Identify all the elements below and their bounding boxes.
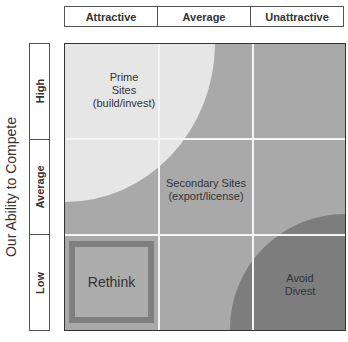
col-unattractive: Unattractive: [251, 7, 343, 26]
y-axis-label: Our Ability to Compete: [0, 43, 22, 331]
row-high: High: [30, 44, 49, 140]
gridline-h1: [65, 138, 345, 140]
avoid-divest-label: Avoid Divest: [265, 272, 335, 298]
gridline-h2: [65, 234, 345, 236]
strategy-matrix: Rethink Prime Sites (build/invest) Secon…: [64, 43, 346, 331]
column-header: Attractive Average Unattractive: [64, 6, 344, 27]
col-attractive: Attractive: [65, 7, 158, 26]
col-average: Average: [158, 7, 251, 26]
row-header: High Average Low: [29, 43, 50, 331]
row-average: Average: [30, 140, 49, 236]
row-low: Low: [30, 235, 49, 330]
rethink-region: Rethink: [69, 241, 154, 323]
rethink-label: Rethink: [75, 247, 148, 317]
secondary-sites-label: Secondary Sites (export/license): [158, 177, 254, 203]
prime-sites-label: Prime Sites (build/invest): [79, 71, 169, 110]
